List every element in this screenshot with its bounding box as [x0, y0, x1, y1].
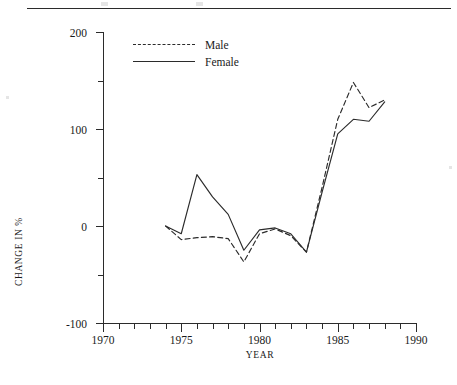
x-tick-major [416, 323, 417, 332]
x-tick-label: 1980 [248, 334, 271, 346]
x-tick-minor [369, 323, 370, 329]
x-tick-major [181, 323, 182, 332]
data-series-layer [103, 32, 416, 323]
x-tick-minor [400, 323, 401, 329]
x-tick-minor [353, 323, 354, 329]
y-tick-major: 100 [96, 129, 103, 130]
legend-label: Male [205, 39, 229, 51]
scan-artifact [6, 96, 9, 99]
x-tick-minor [275, 323, 276, 329]
x-tick-minor [244, 323, 245, 329]
x-tick-minor [228, 323, 229, 329]
x-tick-minor [213, 323, 214, 329]
page-header-rule [27, 8, 451, 9]
y-axis-label: CHANGE IN % [14, 217, 24, 286]
plot-area: 2001000-100 19701975198019851990 [103, 32, 416, 323]
x-tick-label: 1990 [405, 334, 428, 346]
y-tick-label: 0 [81, 221, 87, 233]
x-tick-minor [322, 323, 323, 329]
legend-swatch-dashed-icon [133, 44, 195, 45]
y-tick-label: 200 [70, 27, 87, 39]
x-tick-minor [166, 323, 167, 329]
x-tick-label: 1985 [326, 334, 349, 346]
legend-label: Female [205, 56, 239, 68]
x-tick-minor [385, 323, 386, 329]
scan-artifact [101, 2, 108, 6]
x-tick-major [260, 323, 261, 332]
x-tick-minor [197, 323, 198, 329]
y-tick-label: 100 [70, 124, 87, 136]
figure-page: CHANGE IN % YEAR 2001000-100 19701975198… [0, 0, 457, 385]
x-axis-label: YEAR [246, 350, 274, 360]
chart-legend: Male Female [133, 36, 239, 70]
x-tick-major [103, 323, 104, 332]
scan-artifact [196, 2, 203, 6]
legend-swatch-solid-icon [133, 61, 195, 62]
x-tick-minor [306, 323, 307, 329]
y-tick-major: 200 [96, 32, 103, 33]
x-tick-major [338, 323, 339, 332]
y-tick-label: -100 [66, 318, 87, 330]
x-tick-minor [134, 323, 135, 329]
legend-item-female: Female [133, 53, 239, 70]
x-tick-minor [150, 323, 151, 329]
series-line-male [166, 82, 385, 261]
series-line-female [166, 102, 385, 252]
legend-item-male: Male [133, 36, 239, 53]
x-tick-label: 1975 [170, 334, 193, 346]
scan-artifact [449, 166, 452, 169]
y-tick-major: 0 [96, 226, 103, 227]
x-tick-minor [119, 323, 120, 329]
x-tick-label: 1970 [92, 334, 115, 346]
y-tick-major: -100 [96, 323, 103, 324]
x-tick-minor [291, 323, 292, 329]
